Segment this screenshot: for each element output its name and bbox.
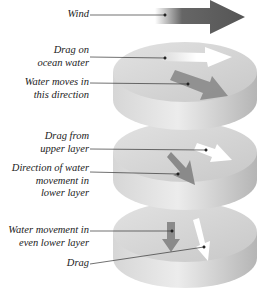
label-drag-on-ocean: Drag on ocean water	[37, 44, 89, 69]
label-line: ocean water	[37, 57, 89, 70]
label-line: Direction of water	[12, 162, 89, 175]
wind-arrow-icon	[155, 0, 245, 34]
bottom-water-layer-disk	[113, 202, 257, 288]
label-line: upper layer	[40, 143, 89, 156]
label-drag: Drag	[67, 257, 89, 270]
label-line: Drag on	[37, 44, 89, 57]
label-water-moves: Water moves in this direction	[25, 76, 89, 101]
label-line: Wind	[67, 8, 89, 19]
label-water-even-lower: Water movement in even lower layer	[8, 224, 89, 249]
label-wind: Wind	[67, 8, 89, 21]
label-direction-lower: Direction of water movement in lower lay…	[12, 162, 89, 200]
label-line: movement in	[12, 175, 89, 188]
label-line: Water moves in	[25, 76, 89, 89]
middle-water-layer-disk	[113, 122, 257, 210]
label-line: even lower layer	[8, 237, 89, 250]
label-line: this direction	[25, 89, 89, 102]
label-line: Water movement in	[8, 224, 89, 237]
label-line: Drag from	[40, 130, 89, 143]
label-line: lower layer	[12, 187, 89, 200]
label-line: Drag	[67, 257, 89, 268]
label-drag-upper: Drag from upper layer	[40, 130, 89, 155]
